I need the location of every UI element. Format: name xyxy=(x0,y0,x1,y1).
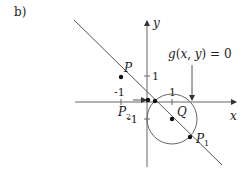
y-axis-label: y xyxy=(152,16,160,30)
label-q: Q xyxy=(177,105,187,119)
label-p1: P1 xyxy=(195,132,209,148)
point-p1 xyxy=(188,135,192,139)
diagram-canvas: b) x y -1 1 1 -1 g(x, y) = 0 P P2 Q P1 xyxy=(0,0,247,174)
label-p2: P2 xyxy=(117,105,131,121)
point-p xyxy=(119,75,123,79)
point-origin-contact xyxy=(146,98,150,102)
x-axis-label: x xyxy=(230,109,237,123)
point-p2 xyxy=(153,99,157,103)
x-tick-label-neg1: -1 xyxy=(114,86,125,99)
panel-label: b) xyxy=(14,5,26,19)
x-tick-label-1: 1 xyxy=(169,86,176,99)
curve-label: g(x, y) = 0 xyxy=(168,47,232,61)
label-p: P xyxy=(123,61,133,75)
point-q xyxy=(170,117,174,121)
y-tick-label-1: 1 xyxy=(152,70,159,83)
